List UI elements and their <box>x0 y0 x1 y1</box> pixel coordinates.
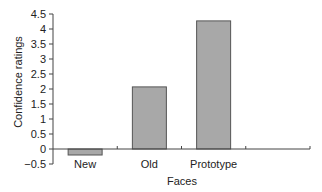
y-axis-title: Confidence ratings <box>12 36 24 128</box>
y-tick-label: 4 <box>40 23 46 35</box>
x-category-label: Prototype <box>190 158 237 170</box>
y-tick-label: −0.5 <box>24 158 46 170</box>
y-tick-label: 4.5 <box>31 8 46 20</box>
y-axis: −0.500.511.522.533.544.5 <box>24 8 53 170</box>
y-tick-label: 3 <box>40 53 46 65</box>
y-tick-label: 2.5 <box>31 68 46 80</box>
bar-new <box>68 149 102 155</box>
y-tick-label: 3.5 <box>31 38 46 50</box>
y-tick-label: 0.5 <box>31 128 46 140</box>
x-category-label: Old <box>141 158 158 170</box>
chart-svg: −0.500.511.522.533.544.5 NewOldPrototype… <box>0 0 322 192</box>
x-category-label: New <box>74 158 96 170</box>
bar-old <box>132 87 166 149</box>
x-axis-title: Faces <box>167 175 197 187</box>
bar-prototype <box>197 21 231 149</box>
bars <box>68 21 231 155</box>
y-tick-label: 1 <box>40 113 46 125</box>
y-tick-label: 1.5 <box>31 98 46 110</box>
y-tick-label: 2 <box>40 83 46 95</box>
y-tick-label: 0 <box>40 143 46 155</box>
